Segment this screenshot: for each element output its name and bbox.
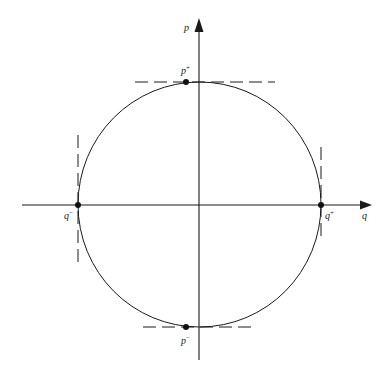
point-q-plus bbox=[318, 202, 324, 208]
label-p-minus-sup: − bbox=[186, 334, 190, 342]
point-p-minus bbox=[183, 324, 189, 330]
label-p-plus: p+ bbox=[180, 64, 190, 76]
point-p-plus bbox=[183, 79, 189, 85]
label-p-minus: p− bbox=[180, 334, 190, 346]
label-q-plus-sup: + bbox=[330, 209, 334, 217]
point-q-minus bbox=[75, 202, 81, 208]
p-axis-arrowhead-icon bbox=[195, 18, 204, 32]
q-axis-label: q bbox=[362, 210, 367, 221]
phase-portrait-figure: p q p+ p− q− q+ bbox=[0, 0, 388, 378]
label-p-plus-sup: + bbox=[186, 64, 190, 72]
label-q-minus-sup: − bbox=[69, 209, 73, 217]
p-axis-label: p bbox=[183, 22, 189, 33]
label-q-plus: q+ bbox=[325, 209, 334, 221]
label-q-minus: q− bbox=[64, 209, 73, 221]
q-axis-arrowhead-icon bbox=[360, 201, 372, 210]
